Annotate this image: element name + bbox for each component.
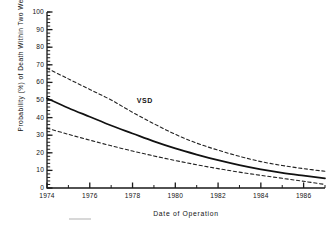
x-axis-tick-label: 1976	[73, 192, 107, 199]
x-axis-tick-label: 1986	[287, 192, 321, 199]
series-annotation-vsd: VSD	[137, 97, 153, 104]
x-axis-tick-labels: 1974197619781980198219841986	[0, 0, 336, 225]
scan-artifact-mark	[69, 218, 91, 220]
x-axis-tick-label: 1980	[158, 192, 192, 199]
x-axis-title: Date of Operation	[47, 210, 325, 217]
chart-figure: 0102030405060708090100 19741976197819801…	[0, 0, 336, 225]
x-axis-tick-label: 1974	[30, 192, 64, 199]
x-axis-tick-label: 1982	[201, 192, 235, 199]
x-axis-tick-label: 1978	[116, 192, 150, 199]
y-axis-title: Probability (%) of Death Within Two Week…	[17, 0, 24, 148]
x-axis-tick-label: 1984	[244, 192, 278, 199]
